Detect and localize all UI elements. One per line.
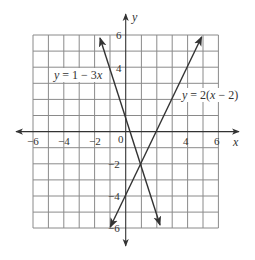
x-tick-label: 6 [214,135,220,147]
eq1-body: = 1 − 3 [59,68,97,82]
origin-label: 0 [118,133,124,145]
y-tick-label: 6 [116,29,122,41]
x-tick-label: 4 [183,135,189,147]
y-axis-label: y [131,10,138,24]
equation-label-2: y = 2(x − 2) [181,88,238,102]
y-tick-label: −4 [108,190,120,202]
y-tick-label: −2 [108,158,120,170]
coordinate-plane: y x −6 −4 −2 0 4 6 6 4 −2 −4 −6 y = 1 − … [0,0,255,260]
eq2-tail: − 2) [215,88,238,102]
x-tick-label: −2 [89,135,101,147]
x-tick-label: −6 [27,135,39,147]
y-tick-label: −6 [108,222,120,234]
eq2-body: = 2( [187,88,210,102]
equation-label-1: y = 1 − 3x [53,68,103,82]
eq1-x: x [96,68,103,82]
y-tick-label: 4 [116,62,122,74]
x-axis-label: x [232,135,239,149]
x-tick-label: −4 [58,135,70,147]
